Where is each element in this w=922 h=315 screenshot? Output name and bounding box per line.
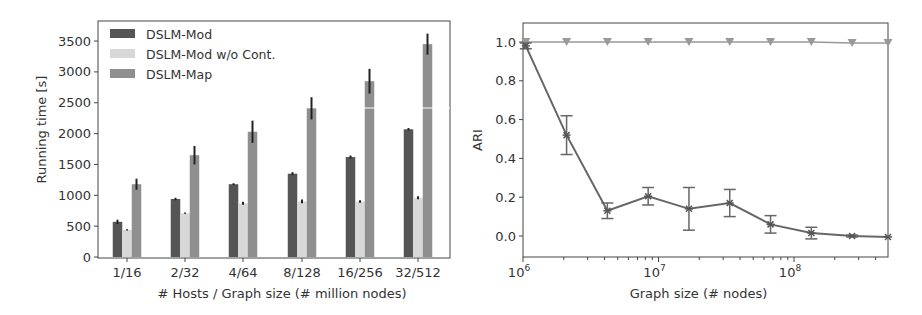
- star-marker: [848, 233, 856, 239]
- plot-frame: [523, 23, 888, 257]
- y-tick-label: 0.8: [495, 73, 516, 88]
- x-axis-title: Graph size (# nodes): [630, 286, 768, 301]
- x-tick-label: 106: [508, 263, 531, 280]
- series-line: [526, 46, 888, 237]
- x-tick-label: 108: [779, 263, 802, 280]
- y-tick-label: 0.0: [495, 229, 516, 244]
- y-tick-label: 0.2: [495, 190, 516, 205]
- y-axis-title: ARI: [470, 129, 485, 151]
- y-tick-label: 1.0: [495, 35, 516, 50]
- x-tick-label: 107: [643, 263, 665, 280]
- y-tick-label: 0.6: [495, 112, 516, 127]
- y-tick-label: 0.4: [495, 151, 516, 166]
- ari-line-chart: 0.00.20.40.60.81.0106107108Graph size (#…: [0, 0, 922, 315]
- series-line: [526, 42, 888, 43]
